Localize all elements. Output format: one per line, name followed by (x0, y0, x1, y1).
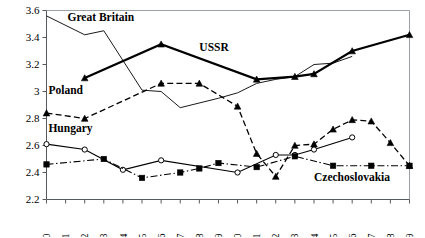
series-label-poland: Poland (48, 84, 83, 96)
x-tick-label: 1989 (404, 234, 415, 238)
data-point-marker (272, 173, 279, 179)
data-point-marker (101, 156, 106, 161)
series-label-czechoslovakia: Czechoslovakia (314, 171, 390, 183)
x-tick-label: 1972 (79, 234, 90, 238)
data-point-marker (159, 158, 164, 163)
data-point-marker (369, 163, 374, 168)
data-point-marker (407, 163, 412, 168)
data-point-marker (273, 152, 278, 157)
data-point-marker (139, 175, 144, 180)
data-point-marker (197, 166, 202, 171)
y-tick-label: 3.2 (26, 58, 40, 70)
y-tick-label: 3.6 (26, 4, 40, 16)
data-point-marker (350, 135, 355, 140)
data-point-marker (81, 115, 88, 121)
x-tick-label: 1976 (156, 234, 167, 238)
data-point-marker (253, 150, 260, 156)
data-point-marker (330, 126, 337, 132)
series-label-hungary: Hungary (48, 122, 92, 135)
data-point-marker (44, 142, 49, 147)
data-point-marker (234, 103, 241, 109)
x-tick-label: 1978 (194, 234, 205, 238)
data-point-marker (292, 154, 297, 159)
x-tick-label: 1975 (137, 234, 148, 238)
y-tick-label: 2.2 (26, 193, 40, 205)
x-tick-label: 1981 (251, 234, 262, 238)
x-tick-label: 1983 (289, 234, 300, 238)
series-ussr (81, 32, 412, 83)
data-point-marker (216, 160, 221, 165)
x-tick-label: 1979 (213, 234, 224, 238)
series-line (47, 16, 353, 108)
data-point-marker (311, 147, 316, 152)
x-tick-label: 1971 (60, 234, 71, 238)
data-point-marker (254, 164, 259, 169)
x-tick-label: 1970 (41, 234, 52, 238)
x-tick-label: 1986 (347, 234, 358, 238)
series-poland (43, 80, 413, 179)
y-tick-label: 3.4 (26, 31, 40, 43)
x-tick-label: 1982 (270, 234, 281, 238)
x-tick-label: 1984 (309, 234, 320, 238)
data-point-marker (368, 118, 375, 124)
x-tick-label: 1988 (385, 234, 396, 238)
series-label-great-britain: Great Britain (68, 11, 135, 23)
y-tick-label: 2.4 (26, 166, 40, 178)
data-point-marker (387, 140, 394, 146)
y-axis-ticks: 2.22.42.62.833.23.43.6 (26, 4, 47, 205)
x-tick-label: 1987 (366, 234, 377, 238)
series-line (47, 83, 410, 176)
y-tick-label: 3 (34, 85, 40, 97)
line-chart: 2.22.42.62.833.23.43.6 19701971197219731… (0, 0, 425, 237)
y-tick-label: 2.8 (26, 112, 40, 124)
series-line (85, 35, 410, 80)
y-tick-label: 2.6 (26, 139, 40, 151)
x-tick-label: 1980 (232, 234, 243, 238)
data-point-marker (330, 163, 335, 168)
x-tick-label: 1973 (98, 234, 109, 238)
data-point-marker (235, 170, 240, 175)
series-label-ussr: USSR (199, 41, 229, 53)
data-point-marker (82, 147, 87, 152)
x-axis-ticks: 1970197119721973197419751976197719781979… (41, 200, 415, 238)
x-tick-label: 1985 (328, 234, 339, 238)
data-point-marker (178, 170, 183, 175)
data-point-marker (44, 162, 49, 167)
series-great-britain (47, 16, 353, 108)
x-tick-label: 1977 (175, 234, 186, 238)
x-tick-label: 1974 (118, 234, 129, 238)
chart-canvas: 2.22.42.62.833.23.43.6 19701971197219731… (0, 0, 425, 237)
